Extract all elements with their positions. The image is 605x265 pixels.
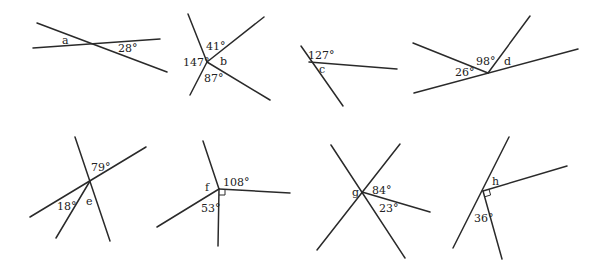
line (453, 137, 509, 248)
unknown-angle-label: a (62, 34, 69, 47)
unknown-angle-label: c (319, 63, 325, 76)
unknown-angle-label: e (86, 195, 93, 208)
line (75, 137, 110, 241)
angle-label: 84° (372, 184, 392, 197)
angle-figures-canvas: a 28° b 41° 147° 87° c 127° d 98° 26° e … (0, 0, 605, 265)
angle-label: 18° (57, 200, 77, 213)
unknown-angle-label: d (504, 55, 511, 68)
figure-a: a 28° (33, 23, 167, 72)
angle-label: 147° (183, 56, 210, 69)
ray (219, 189, 290, 193)
ray (218, 189, 219, 246)
ray (188, 14, 207, 62)
angle-label: 87° (204, 72, 224, 85)
angle-label: 26° (455, 66, 475, 79)
figure-c: c 127° (301, 46, 397, 106)
line (414, 49, 578, 93)
line (37, 23, 167, 72)
angle-label: 98° (476, 55, 496, 68)
figure-g: g 84° 23° (317, 144, 430, 258)
angle-label: 41° (206, 40, 226, 53)
angle-label: 127° (308, 49, 335, 62)
figure-d: d 98° 26° (413, 16, 578, 93)
figure-h: h 36° (453, 137, 567, 259)
angle-label: 36° (474, 212, 494, 225)
unknown-angle-label: h (492, 175, 499, 188)
angle-label: 79° (91, 161, 111, 174)
ray (483, 191, 502, 259)
angle-label: 28° (118, 42, 138, 55)
unknown-angle-label: g (352, 186, 359, 199)
angle-label: 108° (223, 176, 250, 189)
unknown-angle-label: f (205, 181, 210, 194)
figure-f: f 108° 53° (157, 141, 290, 246)
angle-label: 23° (379, 202, 399, 215)
unknown-angle-label: b (220, 55, 227, 68)
line (33, 39, 160, 48)
figure-e: e 79° 18° (30, 137, 146, 241)
figure-b: b 41° 147° 87° (183, 14, 270, 100)
angle-label: 53° (201, 202, 221, 215)
